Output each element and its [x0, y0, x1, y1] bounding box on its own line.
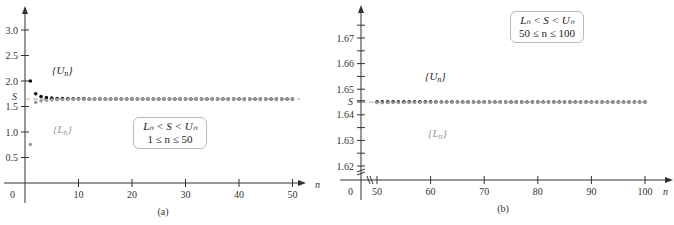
annotation-inequality-a: Lₙ < S < Uₙ — [140, 120, 200, 133]
lower-point-b — [429, 101, 432, 104]
lower-point-a — [146, 97, 150, 101]
y-axis-arrow-a — [22, 6, 28, 14]
y-tick-label-b: 1.66 — [337, 58, 355, 69]
origin-label-a: 0 — [10, 189, 15, 200]
lower-point-b — [413, 101, 416, 104]
lower-point-b — [472, 101, 475, 104]
s-label-b: S — [348, 96, 353, 107]
y-tick-label-b: 1.67 — [337, 33, 355, 44]
lower-point-b — [445, 101, 448, 104]
lower-point-b — [386, 101, 389, 104]
lower-point-a — [45, 98, 49, 102]
lower-point-a — [66, 98, 70, 102]
series-label-lower-b: {Ln} — [428, 127, 448, 141]
lower-point-a — [55, 98, 59, 102]
upper-point-a — [29, 79, 33, 83]
lower-point-b — [397, 101, 400, 104]
lower-point-a — [152, 97, 156, 101]
lower-point-a — [162, 97, 166, 101]
lower-point-a — [285, 97, 289, 101]
lower-point-a — [259, 97, 263, 101]
lower-point-b — [552, 101, 555, 104]
lower-point-b — [617, 101, 620, 104]
lower-point-b — [611, 101, 614, 104]
lower-point-a — [194, 97, 198, 101]
lower-point-a — [29, 143, 33, 147]
lower-point-a — [210, 97, 214, 101]
lower-point-a — [269, 97, 273, 101]
lower-point-b — [627, 101, 630, 104]
lower-point-b — [504, 101, 507, 104]
annotation-box-b: Lₙ < S < Uₙ 50 ≤ n ≤ 100 — [510, 11, 584, 43]
lower-point-a — [141, 97, 145, 101]
lower-point-b — [381, 101, 384, 104]
lower-point-b — [622, 101, 625, 104]
lower-point-b — [402, 101, 405, 104]
lower-point-a — [120, 97, 124, 101]
lower-point-a — [216, 97, 220, 101]
lower-point-b — [456, 101, 459, 104]
lower-point-b — [563, 101, 566, 104]
lower-point-b — [584, 101, 587, 104]
lower-point-b — [440, 101, 443, 104]
origin-label-b: 0 — [348, 186, 353, 197]
y-axis-arrow-b — [358, 5, 364, 13]
lower-point-a — [98, 97, 102, 101]
x-axis-arrow-a — [298, 180, 306, 186]
x-tick-label-b: 90 — [586, 186, 596, 197]
series-label-lower-a: {Ln} — [53, 123, 73, 137]
lower-point-a — [136, 97, 140, 101]
lower-point-a — [93, 97, 97, 101]
lower-point-b — [466, 101, 469, 104]
annotation-inequality-b: Lₙ < S < Uₙ — [517, 14, 577, 27]
lower-point-b — [531, 101, 534, 104]
annotation-range-b: 50 ≤ n ≤ 100 — [517, 27, 577, 40]
x-tick-label-a: 20 — [127, 189, 137, 200]
lower-point-b — [595, 101, 598, 104]
lower-point-b — [633, 101, 636, 104]
lower-point-b — [461, 101, 464, 104]
lower-point-a — [39, 99, 43, 103]
lower-point-a — [103, 97, 107, 101]
lower-point-a — [114, 97, 118, 101]
lower-point-b — [574, 101, 577, 104]
lower-point-b — [638, 101, 641, 104]
x-tick-label-a: 40 — [234, 189, 244, 200]
lower-point-b — [520, 101, 523, 104]
lower-point-b — [515, 101, 518, 104]
lower-point-a — [178, 97, 182, 101]
caption-a: (a) — [157, 206, 168, 218]
y-tick-label-b: 1.63 — [337, 135, 355, 146]
lower-point-a — [61, 98, 65, 102]
lower-point-b — [547, 101, 550, 104]
y-tick-label-a: 0.5 — [6, 152, 19, 163]
x-tick-label-a: 50 — [288, 189, 298, 200]
lower-point-a — [125, 97, 129, 101]
lower-point-a — [221, 97, 225, 101]
lower-point-a — [77, 98, 81, 102]
lower-point-a — [205, 97, 209, 101]
x-tick-label-a: 10 — [74, 189, 84, 200]
y-tick-label-a: 2.0 — [6, 76, 19, 87]
series-label-upper-a: {Un} — [52, 64, 73, 78]
lower-point-b — [434, 101, 437, 104]
upper-point-a — [39, 95, 43, 99]
series-label-upper-b: {Un} — [425, 70, 446, 84]
lower-point-a — [130, 97, 134, 101]
lower-point-a — [50, 98, 54, 102]
annotation-range-a: 1 ≤ n ≤ 50 — [140, 133, 200, 146]
y-tick-label-b: 1.64 — [337, 109, 355, 120]
lower-point-b — [375, 101, 378, 104]
lower-point-b — [590, 101, 593, 104]
lower-point-b — [541, 101, 544, 104]
y-tick-label-a: 2.5 — [6, 50, 19, 61]
lower-point-a — [157, 97, 161, 101]
lower-point-a — [264, 97, 268, 101]
lower-point-b — [643, 101, 646, 104]
lower-point-b — [600, 101, 603, 104]
caption-b: (b) — [497, 203, 509, 215]
lower-point-b — [477, 101, 480, 104]
lower-point-a — [275, 97, 279, 101]
lower-point-b — [509, 101, 512, 104]
x-axis-name-a: n — [315, 179, 320, 190]
